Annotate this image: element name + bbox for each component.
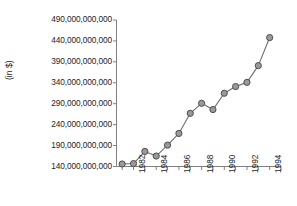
x-axis-tick-label: 1984 (160, 154, 169, 172)
x-axis-tick-label: 1990 (228, 154, 237, 172)
x-axis-tick-label: 1982 (138, 154, 147, 172)
line-chart: (in $) 140,000,000,000190,000,000,000240… (0, 0, 297, 206)
x-axis-tick-labels: 1982198419861988199019921994 (0, 0, 297, 206)
x-axis-tick-label: 1986 (183, 154, 192, 172)
x-axis-tick-label: 1992 (251, 154, 260, 172)
x-axis-tick-label: 1994 (274, 154, 283, 172)
x-axis-tick-label: 1988 (206, 154, 215, 172)
